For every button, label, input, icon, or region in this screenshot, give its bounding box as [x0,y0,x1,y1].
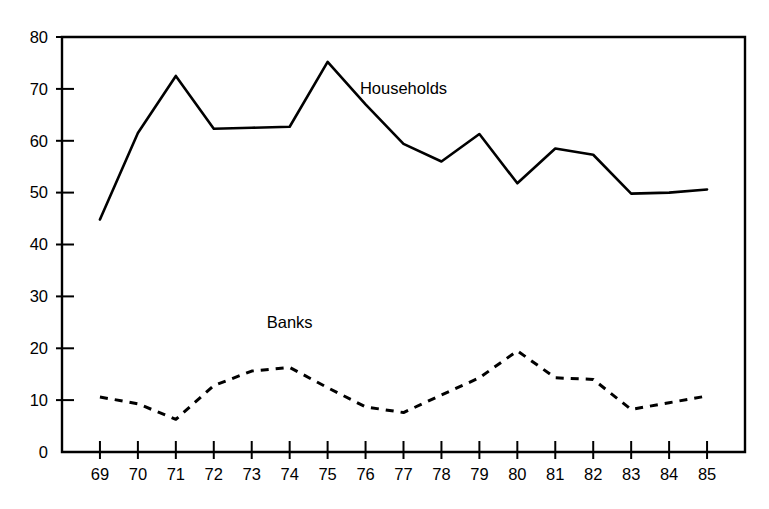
series-annotation-households: Households [360,79,447,97]
y-tick-label-60: 60 [30,132,48,150]
y-tick-label-20: 20 [30,339,48,357]
x-tick-label-72: 72 [205,465,223,483]
plot-border [62,37,745,452]
series-annotation-banks: Banks [267,313,313,331]
line-chart-plot: 0 10 20 30 40 50 60 70 80 69707172737475… [0,0,769,509]
y-tick-label-50: 50 [30,183,48,201]
x-tick-label-80: 80 [508,465,526,483]
x-tick-label-85: 85 [698,465,716,483]
x-tick-label-69: 69 [91,465,109,483]
x-tick-label-77: 77 [394,465,412,483]
y-tick-label-80: 80 [30,28,48,46]
x-tick-label-70: 70 [129,465,147,483]
x-tick-label-84: 84 [660,465,678,483]
x-tick-label-74: 74 [280,465,298,483]
data-series-layer [100,62,707,419]
y-axis-ticks [56,37,74,452]
x-tick-label-81: 81 [546,465,564,483]
series-annotations: HouseholdsBanks [267,79,447,330]
x-tick-label-75: 75 [318,465,336,483]
axis-frame [62,37,745,452]
y-tick-label-40: 40 [30,235,48,253]
x-tick-label-79: 79 [470,465,488,483]
y-tick-label-0: 0 [39,443,48,461]
x-tick-label-71: 71 [167,465,185,483]
x-axis-labels: 6970717273747576777879808182838485 [91,465,716,483]
x-tick-label-82: 82 [584,465,602,483]
x-tick-label-76: 76 [356,465,374,483]
x-tick-label-73: 73 [243,465,261,483]
y-axis-labels: 0 10 20 30 40 50 60 70 80 [30,28,48,461]
y-tick-label-70: 70 [30,80,48,98]
series-line-banks [100,351,707,419]
x-axis-ticks [100,441,707,459]
chart-figure: 0 10 20 30 40 50 60 70 80 69707172737475… [0,0,769,509]
x-tick-label-78: 78 [432,465,450,483]
y-tick-label-30: 30 [30,287,48,305]
x-tick-label-83: 83 [622,465,640,483]
y-tick-label-10: 10 [30,391,48,409]
